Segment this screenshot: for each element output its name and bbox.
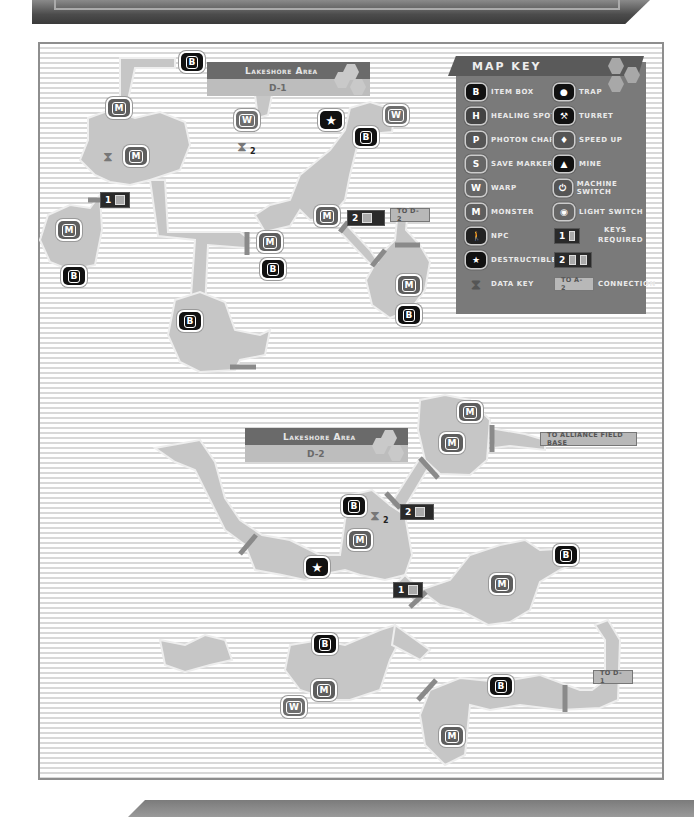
legend-mine: ▲Mine bbox=[554, 156, 602, 172]
data-key-icon[interactable]: ⧗2 bbox=[237, 136, 251, 156]
monster-icon[interactable]: M bbox=[58, 221, 80, 239]
legend-save-marker: SSave Marker bbox=[466, 156, 554, 172]
keys-required-badge: 2 bbox=[400, 504, 434, 520]
light-switch-icon: ◉ bbox=[554, 204, 574, 220]
legend-speed-up: ♦Speed Up bbox=[554, 132, 623, 148]
warp-icon[interactable]: W bbox=[385, 106, 407, 124]
npc-icon: 🚶 bbox=[466, 228, 486, 244]
legend-keys-required: Keys Required bbox=[598, 226, 643, 244]
keys-required-sample-2: 2 bbox=[554, 252, 592, 268]
area-title-d1: Lakeshore Area D-1 bbox=[207, 62, 370, 96]
item-box-icon[interactable]: B bbox=[490, 677, 512, 695]
mine-icon: ▲ bbox=[554, 156, 574, 172]
map-key-panel: MAP KEY BItem Box HHealing Spot PPhoton … bbox=[456, 62, 646, 314]
legend-npc: 🚶NPC bbox=[466, 228, 509, 244]
connection-sample: TO A-2 bbox=[554, 277, 594, 291]
destructible-icon: ★ bbox=[466, 252, 486, 268]
room bbox=[120, 58, 175, 100]
healing-spot-icon: H bbox=[466, 108, 486, 124]
monster-icon[interactable]: M bbox=[441, 727, 463, 745]
legend-connection: Connection bbox=[598, 280, 656, 288]
item-box-icon[interactable]: B bbox=[355, 128, 377, 146]
area-title-d2: Lakeshore Area D-2 bbox=[245, 428, 408, 462]
monster-icon: M bbox=[466, 204, 486, 220]
monster-icon[interactable]: M bbox=[491, 575, 513, 593]
save-marker-icon: S bbox=[466, 156, 486, 172]
turret-icon: ⚒ bbox=[554, 108, 574, 124]
item-box-icon[interactable]: B bbox=[262, 260, 284, 278]
legend-healing-spot: HHealing Spot bbox=[466, 108, 556, 124]
machine-switch-icon: ⏻ bbox=[554, 180, 572, 196]
monster-icon[interactable]: M bbox=[313, 681, 335, 699]
photon-charge-icon: P bbox=[466, 132, 486, 148]
destructible-icon[interactable]: ★ bbox=[306, 558, 328, 576]
data-key-icon[interactable]: ⧗2 bbox=[370, 505, 384, 525]
warp-icon: W bbox=[466, 180, 486, 196]
keys-required-sample-1: 1 bbox=[554, 228, 580, 244]
item-box-icon[interactable]: B bbox=[63, 267, 85, 285]
legend-light-switch: ◉Light Switch bbox=[554, 204, 643, 220]
monster-icon[interactable]: M bbox=[108, 99, 130, 117]
data-key-icon[interactable]: ⧗ bbox=[103, 146, 117, 166]
monster-icon[interactable]: M bbox=[349, 531, 371, 549]
monster-icon[interactable]: M bbox=[316, 207, 338, 225]
monster-icon[interactable]: M bbox=[459, 403, 481, 421]
item-box-icon[interactable]: B bbox=[398, 306, 420, 324]
connection-to-d2[interactable]: TO D-2 bbox=[390, 208, 430, 222]
monster-icon[interactable]: M bbox=[125, 147, 147, 165]
connection-to-d1[interactable]: TO D-1 bbox=[593, 670, 633, 684]
connection-to-alliance-field-base[interactable]: TO ALLIANCE FIELD BASE bbox=[540, 432, 637, 446]
item-box-icon: B bbox=[466, 84, 486, 100]
speed-up-icon: ♦ bbox=[554, 132, 574, 148]
keys-required-badge: 1 bbox=[393, 582, 423, 598]
legend-item-box: BItem Box bbox=[466, 84, 534, 100]
item-box-icon[interactable]: B bbox=[181, 53, 203, 71]
data-key-icon: ⧗ bbox=[466, 276, 486, 292]
legend-monster: MMonster bbox=[466, 204, 534, 220]
legend-turret: ⚒Turret bbox=[554, 108, 613, 124]
item-box-icon[interactable]: B bbox=[314, 635, 336, 653]
item-box-icon[interactable]: B bbox=[179, 312, 201, 330]
monster-icon[interactable]: M bbox=[259, 233, 281, 251]
legend-data-key: ⧗Data Key bbox=[466, 276, 534, 292]
keys-required-badge: 1 bbox=[100, 192, 130, 208]
warp-icon[interactable]: W bbox=[283, 698, 305, 716]
legend-photon-charge: PPhoton Charge bbox=[466, 132, 567, 148]
legend-warp: WWarp bbox=[466, 180, 517, 196]
bottom-banner bbox=[128, 800, 694, 817]
legend-trap: ●Trap bbox=[554, 84, 602, 100]
legend-destructible: ★Destructible bbox=[466, 252, 557, 268]
item-box-icon[interactable]: B bbox=[343, 497, 365, 515]
destructible-icon[interactable]: ★ bbox=[320, 111, 342, 129]
legend-machine-switch: ⏻Machine Switch bbox=[554, 180, 646, 196]
keys-required-badge: 2 bbox=[347, 210, 385, 226]
monster-icon[interactable]: M bbox=[441, 434, 463, 452]
item-box-icon[interactable]: B bbox=[555, 546, 577, 564]
trap-icon: ● bbox=[554, 84, 574, 100]
monster-icon[interactable]: M bbox=[398, 276, 420, 294]
warp-icon[interactable]: W bbox=[236, 111, 258, 129]
